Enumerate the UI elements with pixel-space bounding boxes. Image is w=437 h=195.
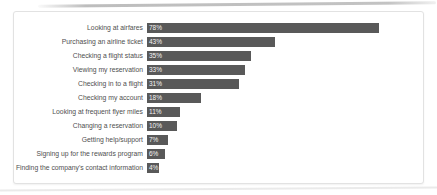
category-label: Looking at frequent flyer miles: [14, 105, 147, 119]
value-label: 33%: [147, 65, 162, 75]
bar: 31%: [147, 79, 239, 89]
bar: 11%: [147, 107, 180, 117]
value-label: 78%: [147, 23, 162, 33]
value-label: 10%: [147, 121, 162, 131]
bar: 78%: [147, 23, 379, 33]
bar: 43%: [147, 37, 275, 47]
bar-row: Finding the company's contact informatio…: [14, 161, 423, 175]
category-label: Signing up for the rewards program: [14, 147, 147, 161]
bar-row: Signing up for the rewards program6%: [14, 147, 423, 161]
bar-row: Purchasing an airline ticket43%: [14, 35, 423, 49]
value-label: 6%: [147, 149, 158, 159]
category-label: Checking my account: [14, 91, 147, 105]
bar-row: Looking at airfares78%: [14, 21, 423, 35]
bar-row: Checking my account18%: [14, 91, 423, 105]
category-label: Looking at airfares: [14, 21, 147, 35]
bar-row: Checking a flight status35%: [14, 49, 423, 63]
value-label: 11%: [147, 107, 162, 117]
bar: 18%: [147, 93, 201, 103]
chart-panel: Looking at airfares78%Purchasing an airl…: [13, 11, 424, 184]
category-label: Purchasing an airline ticket: [14, 35, 147, 49]
category-label: Changing a reservation: [14, 119, 147, 133]
bar-row: Checking in to a flight31%: [14, 77, 423, 91]
bar-chart: Looking at airfares78%Purchasing an airl…: [14, 21, 423, 175]
bar-row: Viewing my reservation33%: [14, 63, 423, 77]
scan-artifact-bottom: [0, 186, 437, 191]
bar: 6%: [147, 149, 165, 159]
bar-row: Looking at frequent flyer miles11%: [14, 105, 423, 119]
value-label: 18%: [147, 93, 162, 103]
category-label: Getting help/support: [14, 133, 147, 147]
bar: 7%: [147, 135, 168, 145]
bar: 10%: [147, 121, 177, 131]
category-label: Checking in to a flight: [14, 77, 147, 91]
scan-artifact-top: [38, 1, 436, 7]
bar-row: Getting help/support7%: [14, 133, 423, 147]
value-label: 35%: [147, 51, 162, 61]
bar-row: Changing a reservation10%: [14, 119, 423, 133]
value-label: 7%: [147, 135, 158, 145]
category-label: Checking a flight status: [14, 49, 147, 63]
bar: 33%: [147, 65, 245, 75]
bar: 35%: [147, 51, 251, 61]
value-label: 43%: [147, 37, 162, 47]
category-label: Viewing my reservation: [14, 63, 147, 77]
bar: 4%: [147, 163, 159, 173]
value-label: 31%: [147, 79, 162, 89]
category-label: Finding the company's contact informatio…: [14, 161, 147, 175]
value-label: 4%: [147, 163, 158, 173]
